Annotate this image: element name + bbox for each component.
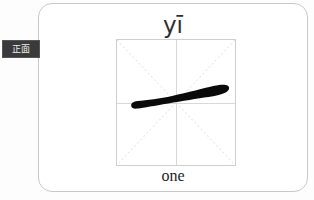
character-stroke-heng — [117, 40, 235, 165]
english-gloss: one — [39, 166, 307, 186]
pinyin-text: yī — [39, 10, 307, 40]
side-tab-label: 正面 — [12, 45, 30, 54]
side-tab-front[interactable]: 正面 — [2, 40, 40, 58]
flashcard[interactable]: yī one — [38, 3, 308, 192]
screen-root: yī one 正面 — [0, 0, 314, 200]
character-grid — [116, 39, 236, 166]
